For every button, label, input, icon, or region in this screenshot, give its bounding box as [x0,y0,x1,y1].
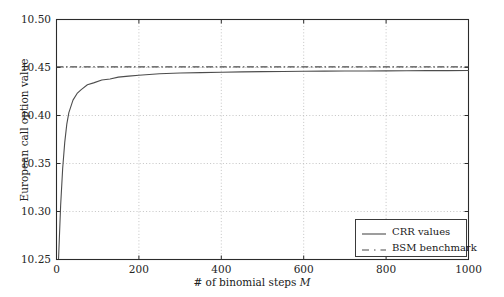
x-tick-label: 600 [279,263,329,275]
x-axis-label: # of binomial steps M [0,276,504,288]
legend-item-crr: CRR values [361,223,461,239]
legend-label-bsm: BSM benchmark [392,242,477,253]
x-tick-label: 400 [196,263,246,275]
chart-legend: CRR values BSM benchmark [355,219,467,257]
solid-line-sample [361,225,387,237]
x-axis-label-text: # of binomial steps [193,276,299,288]
dashed-line-sample [361,241,387,253]
x-tick-label: 800 [361,263,411,275]
legend-label-crr: CRR values [392,226,450,237]
legend-item-bsm: BSM benchmark [361,239,461,255]
x-tick-label: 200 [114,263,164,275]
chart-figure: 10.2510.3010.3510.4010.4510.50 020040060… [0,0,504,297]
y-tick-label: 10.50 [0,13,51,25]
x-tick-label: 0 [32,263,82,275]
y-axis-label: European call option value [18,30,30,230]
x-tick-label: 1000 [444,263,494,275]
x-axis-label-variable: M [300,276,311,288]
